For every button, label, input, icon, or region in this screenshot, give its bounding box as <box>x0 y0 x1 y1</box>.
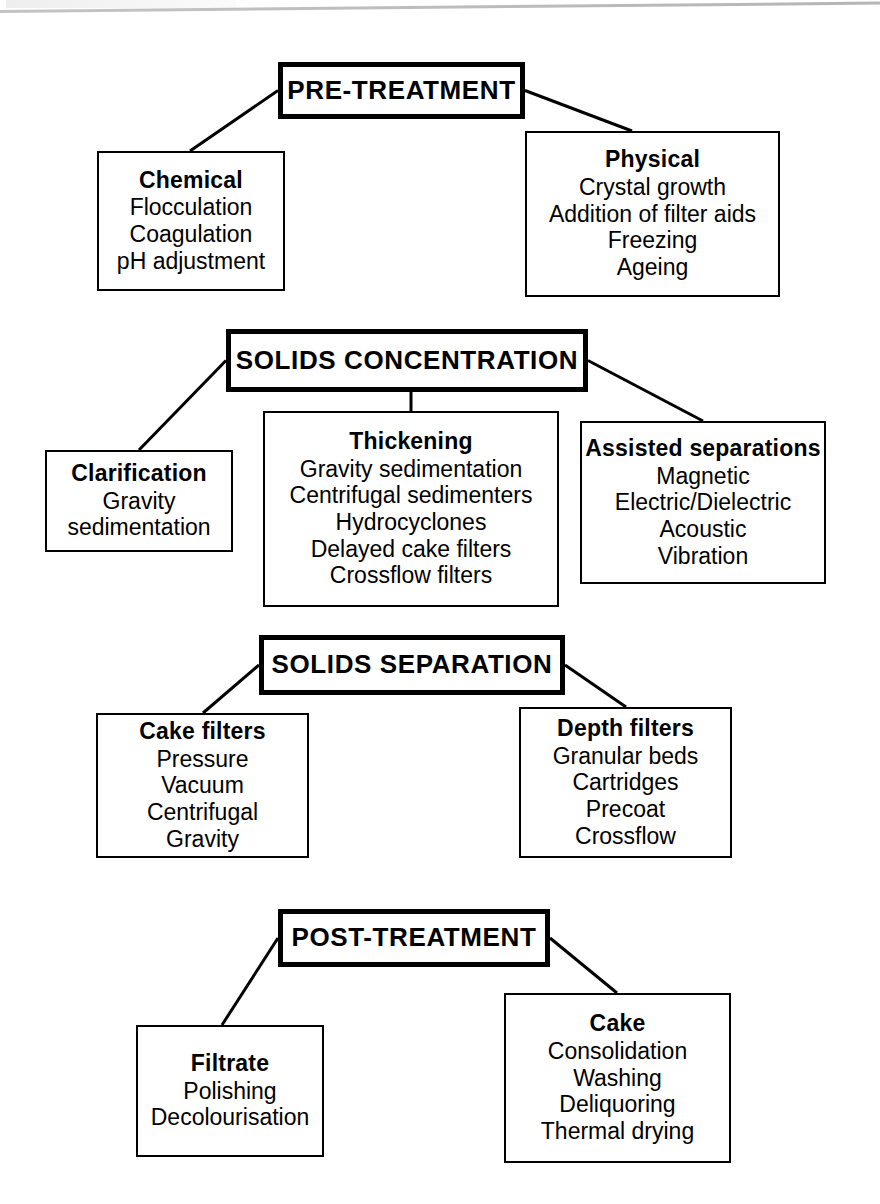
group-box-chemical: ChemicalFlocculationCoagulationpH adjust… <box>97 151 285 291</box>
stage-box-solids-separation: SOLIDS SEPARATION <box>259 635 565 695</box>
group-box-assisted-separations-item: Magnetic <box>656 463 749 490</box>
connector-pre-treatment-to-chemical <box>190 91 278 152</box>
group-box-clarification-item: Gravity <box>103 488 176 515</box>
group-box-physical: PhysicalCrystal growthAddition of filter… <box>525 131 780 297</box>
group-box-cake-filters-item: Gravity <box>166 826 239 853</box>
connector-pre-treatment-to-physical <box>525 91 632 132</box>
group-box-physical-item: Addition of filter aids <box>549 201 756 228</box>
stage-box-solids-concentration-title: SOLIDS CONCENTRATION <box>236 346 578 375</box>
group-box-depth-filters: Depth filtersGranular bedsCartridgesPrec… <box>519 707 732 858</box>
diagram-page: PRE-TREATMENTChemicalFlocculationCoagula… <box>0 0 880 1204</box>
group-box-clarification-title: Clarification <box>71 461 207 487</box>
group-box-filtrate-item: Decolourisation <box>151 1104 310 1131</box>
stage-box-pre-treatment: PRE-TREATMENT <box>278 62 525 119</box>
group-box-chemical-title: Chemical <box>139 168 243 194</box>
connector-solids-separation-to-depth-filters <box>565 665 626 707</box>
stage-box-solids-separation-title: SOLIDS SEPARATION <box>272 650 553 679</box>
group-box-thickening-item: Gravity sedimentation <box>300 456 522 483</box>
group-box-cake-item: Washing <box>573 1065 662 1092</box>
stage-box-post-treatment: POST-TREATMENT <box>278 909 550 967</box>
group-box-cake-item-list: ConsolidationWashingDeliquoringThermal d… <box>541 1038 694 1145</box>
group-box-assisted-separations: Assisted separationsMagneticElectric/Die… <box>580 421 826 584</box>
group-box-filtrate-item: Polishing <box>183 1078 276 1105</box>
group-box-thickening-item: Centrifugal sedimenters <box>290 482 533 509</box>
group-box-physical-title: Physical <box>605 147 700 173</box>
group-box-chemical-item: pH adjustment <box>117 248 265 275</box>
stage-box-pre-treatment-title: PRE-TREATMENT <box>287 76 515 105</box>
stage-box-solids-concentration: SOLIDS CONCENTRATION <box>226 329 588 392</box>
group-box-cake-filters: Cake filtersPressureVacuumCentrifugalGra… <box>96 713 309 858</box>
group-box-thickening: ThickeningGravity sedimentationCentrifug… <box>263 411 559 607</box>
group-box-physical-item: Crystal growth <box>579 174 726 201</box>
group-box-physical-item: Freezing <box>608 227 697 254</box>
group-box-physical-item: Ageing <box>617 254 689 281</box>
connector-post-treatment-to-cake <box>550 938 617 993</box>
group-box-thickening-item: Crossflow filters <box>330 562 492 589</box>
group-box-chemical-item-list: FlocculationCoagulationpH adjustment <box>117 194 265 274</box>
connector-solids-separation-to-cake-filters <box>203 665 259 713</box>
group-box-cake-filters-item: Centrifugal <box>147 799 258 826</box>
group-box-assisted-separations-item: Acoustic <box>660 516 747 543</box>
group-box-cake-filters-item-list: PressureVacuumCentrifugalGravity <box>147 746 258 853</box>
group-box-thickening-item-list: Gravity sedimentationCentrifugal sedimen… <box>290 456 533 589</box>
group-box-filtrate-title: Filtrate <box>191 1051 269 1077</box>
group-box-depth-filters-item: Cartridges <box>572 769 678 796</box>
group-box-cake-filters-item: Pressure <box>156 746 248 773</box>
group-box-cake-title: Cake <box>590 1011 646 1037</box>
group-box-thickening-item: Delayed cake filters <box>311 536 512 563</box>
group-box-assisted-separations-title: Assisted separations <box>585 436 820 462</box>
group-box-assisted-separations-item-list: MagneticElectric/DielectricAcousticVibra… <box>615 463 791 570</box>
group-box-physical-item-list: Crystal growthAddition of filter aidsFre… <box>549 174 756 281</box>
group-box-chemical-item: Coagulation <box>130 221 253 248</box>
group-box-thickening-title: Thickening <box>349 429 472 455</box>
group-box-assisted-separations-item: Vibration <box>658 543 748 570</box>
group-box-chemical-item: Flocculation <box>130 194 253 221</box>
group-box-filtrate: FiltratePolishingDecolourisation <box>136 1025 324 1157</box>
group-box-clarification-item-list: Gravitysedimentation <box>67 488 210 541</box>
group-box-clarification: ClarificationGravitysedimentation <box>45 450 233 552</box>
group-box-depth-filters-title: Depth filters <box>557 716 694 742</box>
group-box-thickening-item: Hydrocyclones <box>336 509 487 536</box>
group-box-assisted-separations-item: Electric/Dielectric <box>615 489 791 516</box>
group-box-cake-item: Consolidation <box>548 1038 687 1065</box>
group-box-depth-filters-item: Precoat <box>586 796 665 823</box>
group-box-depth-filters-item: Crossflow <box>575 823 676 850</box>
group-box-clarification-item: sedimentation <box>67 514 210 541</box>
group-box-cake: CakeConsolidationWashingDeliquoringTherm… <box>504 993 731 1163</box>
stage-box-post-treatment-title: POST-TREATMENT <box>292 923 537 952</box>
connector-solids-concentration-to-clarification <box>139 361 226 451</box>
connector-solids-concentration-to-assisted-separations <box>588 361 703 422</box>
group-box-cake-item: Deliquoring <box>559 1091 675 1118</box>
scan-artifact-smudge <box>6 0 236 8</box>
group-box-cake-filters-item: Vacuum <box>161 772 244 799</box>
group-box-cake-filters-title: Cake filters <box>139 719 265 745</box>
group-box-cake-item: Thermal drying <box>541 1118 694 1145</box>
group-box-filtrate-item-list: PolishingDecolourisation <box>151 1078 310 1131</box>
group-box-depth-filters-item-list: Granular bedsCartridgesPrecoatCrossflow <box>553 743 699 850</box>
group-box-depth-filters-item: Granular beds <box>553 743 699 770</box>
connector-post-treatment-to-filtrate <box>222 938 278 1025</box>
